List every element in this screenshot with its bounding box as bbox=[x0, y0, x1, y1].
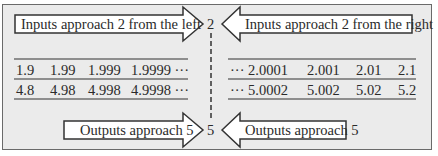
table-cell: 4.998 bbox=[88, 83, 121, 98]
table-cell: 2.01 bbox=[356, 63, 381, 78]
table-cell: ··· 5.0002 bbox=[230, 83, 288, 98]
table-cell: 2.001 bbox=[307, 63, 340, 78]
table-cell: 5.002 bbox=[307, 83, 340, 98]
limit-output-value: 5 bbox=[207, 123, 214, 138]
table-cell: 4.9998 ··· bbox=[131, 83, 189, 98]
inputs-right-label: Inputs approach 2 from the right bbox=[245, 17, 433, 32]
table-cell: 1.9 bbox=[16, 63, 34, 78]
table-cell: ··· 2.0001 bbox=[230, 63, 288, 78]
table-cell: 5.2 bbox=[398, 83, 416, 98]
table-cell: 5.02 bbox=[356, 83, 381, 98]
table-cell: 4.8 bbox=[16, 83, 34, 98]
table-cell: 4.98 bbox=[50, 83, 75, 98]
inputs-left-label: Inputs approach 2 from the left bbox=[21, 17, 201, 32]
outputs-left-label: Outputs approach 5 bbox=[80, 123, 194, 138]
table-cell: 2.1 bbox=[398, 63, 416, 78]
table-cell: 1.9999 ··· bbox=[131, 63, 189, 78]
table-cell: 1.999 bbox=[88, 63, 121, 78]
table-cell: 1.99 bbox=[50, 63, 75, 78]
outputs-right-label: Outputs approach 5 bbox=[245, 123, 359, 138]
limit-input-value: 2 bbox=[207, 17, 214, 32]
